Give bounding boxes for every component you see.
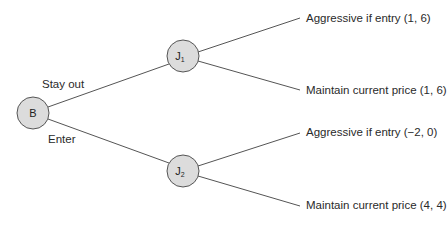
outcome-j1-aggressive: Aggressive if entry (1, 6) xyxy=(306,12,431,24)
node-b-label: B xyxy=(29,107,36,119)
branch-j1-aggressive xyxy=(198,18,300,52)
node-b: B xyxy=(17,97,49,129)
outcome-j1-maintain: Maintain current price (1, 6) xyxy=(306,84,447,96)
branch-label-stay-out: Stay out xyxy=(42,78,84,90)
node-j2: J2 xyxy=(167,155,199,187)
branch-j1-maintain xyxy=(198,61,300,90)
node-j2-subscript: 2 xyxy=(181,171,185,178)
node-j1-subscript: 1 xyxy=(181,56,185,63)
node-j1: J1 xyxy=(167,40,199,72)
branch-j2-aggressive xyxy=(198,133,300,166)
branch-label-enter: Enter xyxy=(48,133,76,145)
outcome-j2-aggressive: Aggressive if entry (−2, 0) xyxy=(306,126,437,138)
outcome-j2-maintain: Maintain current price (4, 4) xyxy=(306,199,447,211)
branch-j2-maintain xyxy=(198,176,300,206)
